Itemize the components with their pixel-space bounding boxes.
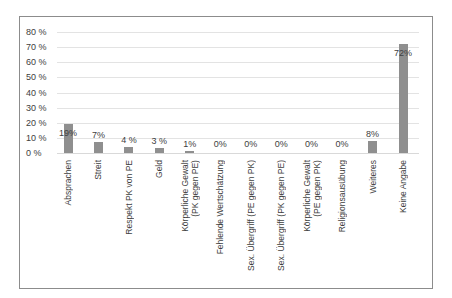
gridline <box>57 32 419 33</box>
x-tick-label: Körperliche Gewalt (PK gegen PE) <box>180 160 200 232</box>
data-label: 0% <box>236 139 266 149</box>
bar <box>185 151 194 153</box>
y-tick-label: 0 % <box>26 148 54 158</box>
x-tick-label: Respekt PK von PE <box>124 160 134 235</box>
data-label: 1% <box>175 139 205 149</box>
y-tick-label: 20 % <box>26 118 54 128</box>
x-tick-label: Absprachen <box>63 160 73 205</box>
x-tick-label: Streit <box>93 160 103 180</box>
y-tick-label: 70 % <box>26 42 54 52</box>
data-label: 72% <box>388 48 418 58</box>
gridline <box>57 108 419 109</box>
gridline <box>57 62 419 63</box>
x-tick-label: Keine Angabe <box>398 160 408 213</box>
data-label: 7% <box>83 130 113 140</box>
data-label: 4 % <box>114 135 144 145</box>
data-label: 0% <box>327 139 357 149</box>
y-tick-label: 30 % <box>26 103 54 113</box>
bar <box>124 147 133 153</box>
gridline <box>57 123 419 124</box>
x-tick-label: Weiteres <box>368 160 378 193</box>
data-label: 0% <box>205 139 235 149</box>
y-tick-label: 10 % <box>26 133 54 143</box>
bar-chart: 0 %10 %20 %30 %40 %50 %60 %70 %80 %19%Ab… <box>0 0 452 298</box>
gridline <box>57 93 419 94</box>
x-tick-label: Fehlende Wertschätzung <box>215 160 225 254</box>
data-label: 19% <box>53 128 83 138</box>
data-label: 0% <box>297 139 327 149</box>
bar <box>155 148 164 153</box>
x-tick-label: Körperliche Gewalt (PE gegen PK) <box>302 160 322 232</box>
y-tick-label: 50 % <box>26 72 54 82</box>
bar <box>94 142 103 153</box>
x-tick-label: Religionsausübung <box>337 160 347 232</box>
x-tick-label: Sex. Übergriff (PE gegen PK) <box>246 160 256 271</box>
bar <box>368 141 377 153</box>
data-label: 0% <box>266 139 296 149</box>
x-tick-label: Sex. Übergriff (PK gegen PE) <box>276 160 286 271</box>
data-label: 8% <box>358 129 388 139</box>
gridline <box>57 47 419 48</box>
data-label: 3 % <box>144 136 174 146</box>
y-tick-label: 80 % <box>26 27 54 37</box>
bar <box>399 44 408 153</box>
y-tick-label: 60 % <box>26 57 54 67</box>
x-tick-label: Geld <box>154 160 164 178</box>
y-tick-label: 40 % <box>26 88 54 98</box>
gridline <box>57 77 419 78</box>
gridline <box>57 153 419 154</box>
